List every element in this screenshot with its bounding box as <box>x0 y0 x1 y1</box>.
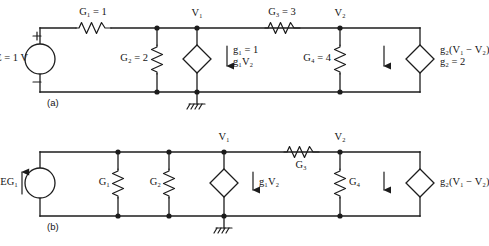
junction-dot <box>166 149 171 154</box>
vccs-g1v2-symbol <box>210 169 238 197</box>
panel-b-tag: (b) <box>47 221 59 232</box>
node-v2-label-b: V₂ <box>334 131 345 143</box>
vccs-g1v2-label-line2: g₁V₂ <box>233 56 253 69</box>
junction-dot <box>194 25 199 30</box>
resistor-g4-symbol <box>335 45 346 74</box>
panel-b-graphics <box>22 147 434 234</box>
resistor-g2-symbol <box>152 45 163 74</box>
junction-dot <box>337 213 342 218</box>
junction-dot <box>166 213 171 218</box>
node-v1-label: V₁ <box>191 7 202 19</box>
resistor-g1-symbol <box>113 169 124 198</box>
resistor-g4-label: G₄ = 4 <box>303 52 331 64</box>
current-source-label: J = EG₁ <box>0 176 18 188</box>
resistor-g3-label: G₃ = 3 <box>268 6 296 18</box>
junction-dot <box>337 89 342 94</box>
vccs-g2v1v2-symbol <box>406 45 434 73</box>
junction-dot <box>115 213 120 218</box>
junction-dot <box>337 149 342 154</box>
vccs-g2v1v2-label-b: g₂(V₁ − V₂) <box>440 176 489 188</box>
resistor-g1-label: G₁ = 1 <box>79 6 107 18</box>
resistor-g4-symbol <box>335 169 346 198</box>
resistor-g1-symbol <box>76 23 111 34</box>
current-source-j <box>25 168 55 198</box>
junction-dot <box>154 89 159 94</box>
node-v1-label-b: V₁ <box>218 131 229 143</box>
voltage-source-label: E = 1 V <box>0 52 28 64</box>
vccs-g1v2-label-b: g₁V₂ <box>259 176 279 188</box>
resistor-g2-label-b: G₂ <box>150 176 161 188</box>
node-v2-label: V₂ <box>334 7 345 19</box>
vccs-g1v2-label-line1: g₁ = 1 <box>233 44 258 57</box>
vccs-g2v1v2-label-line2: g₂ = 2 <box>440 56 465 69</box>
ground-hatch <box>214 228 229 233</box>
vccs-g1v2-symbol <box>183 45 211 73</box>
resistor-g1-label-b: G₁ <box>99 176 110 188</box>
panel-a-tag: (a) <box>47 97 59 108</box>
junction-dot <box>154 25 159 30</box>
resistor-g2-symbol <box>164 169 175 198</box>
junction-dot <box>221 149 226 154</box>
vccs-g2v1v2-label-line1: g₂(V₁ − V₂) <box>440 44 489 57</box>
resistor-g4-label-b: G₄ <box>349 176 360 188</box>
junction-dot <box>337 25 342 30</box>
resistor-g2-label: G₂ = 2 <box>120 52 148 64</box>
junction-dot <box>115 149 120 154</box>
panel-a-graphics <box>25 23 434 110</box>
ground-hatch <box>187 104 202 109</box>
vccs-g2v1v2-symbol <box>406 169 434 197</box>
voltage-source-e <box>25 44 55 74</box>
resistor-g3-label-b: G₃ <box>295 159 306 171</box>
